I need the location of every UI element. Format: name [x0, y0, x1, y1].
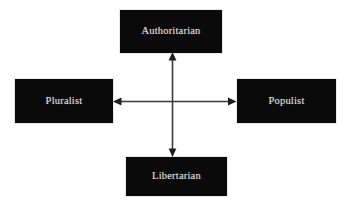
- horizontal-axis-arrowhead-left: [113, 97, 122, 105]
- horizontal-axis-arrowhead-right: [228, 97, 237, 105]
- vertical-axis-arrowhead-down: [169, 149, 177, 158]
- node-pluralist-label: Pluralist: [46, 96, 83, 107]
- node-authoritarian-label: Authoritarian: [141, 26, 200, 37]
- diagram-canvas: Authoritarian Pluralist Populist Liberta…: [0, 0, 351, 205]
- node-libertarian-label: Libertarian: [152, 171, 201, 182]
- vertical-axis-arrowhead-up: [169, 52, 177, 61]
- node-populist-label: Populist: [268, 96, 304, 107]
- node-populist[interactable]: Populist: [237, 79, 336, 123]
- node-authoritarian[interactable]: Authoritarian: [120, 10, 222, 53]
- horizontal-axis-arrow: [113, 97, 237, 105]
- vertical-axis-arrow: [169, 52, 177, 157]
- node-libertarian[interactable]: Libertarian: [126, 157, 227, 196]
- node-pluralist[interactable]: Pluralist: [15, 79, 113, 123]
